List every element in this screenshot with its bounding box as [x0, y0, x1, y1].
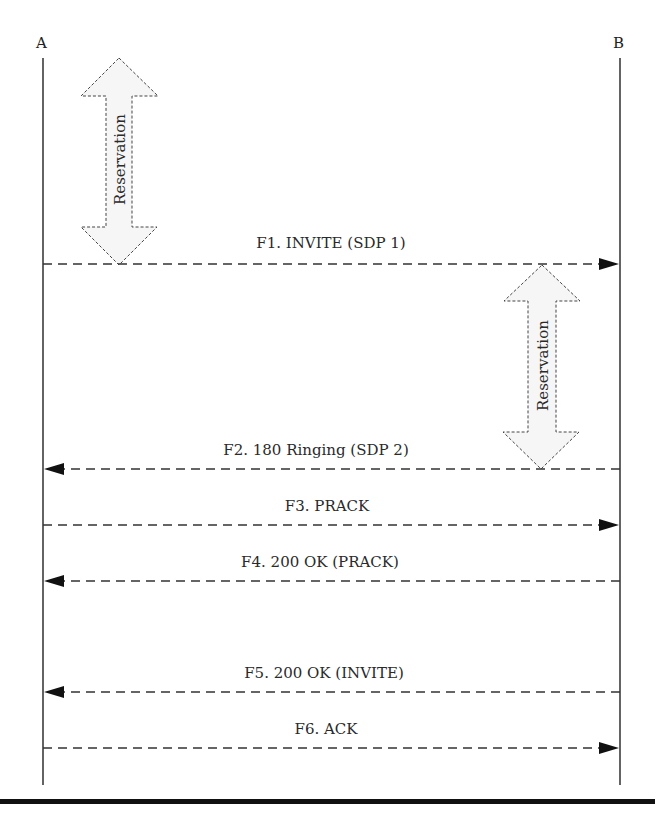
message-f2-label: F2. 180 Ringing (SDP 2) [223, 441, 408, 459]
message-f5: F5. 200 OK (INVITE) [44, 664, 620, 698]
message-f1-label: F1. INVITE (SDP 1) [256, 234, 405, 252]
arrowhead-right-icon [599, 519, 619, 531]
message-f3-label: F3. PRACK [285, 497, 370, 515]
reservation-a: Reservation [81, 58, 158, 265]
message-f6-label: F6. ACK [294, 720, 358, 738]
message-f4-label: F4. 200 OK (PRACK) [241, 553, 399, 571]
message-f3: F3. PRACK [43, 497, 619, 531]
arrowhead-left-icon [44, 463, 64, 475]
arrowhead-right-icon [599, 742, 619, 754]
message-f5-label: F5. 200 OK (INVITE) [244, 664, 404, 682]
bottom-rule [0, 799, 655, 804]
message-f6: F6. ACK [43, 720, 619, 754]
arrowhead-left-icon [44, 686, 64, 698]
sequence-diagram: A B Reservation Reservation F1. INVITE (… [0, 0, 662, 817]
reservation-b: Reservation [503, 265, 580, 469]
actor-a-label: A [35, 34, 47, 52]
actor-b-label: B [613, 34, 624, 52]
reservation-a-label: Reservation [111, 114, 129, 205]
message-f4: F4. 200 OK (PRACK) [44, 553, 620, 587]
arrowhead-right-icon [599, 258, 619, 270]
arrowhead-left-icon [44, 575, 64, 587]
reservation-b-label: Reservation [534, 320, 552, 411]
